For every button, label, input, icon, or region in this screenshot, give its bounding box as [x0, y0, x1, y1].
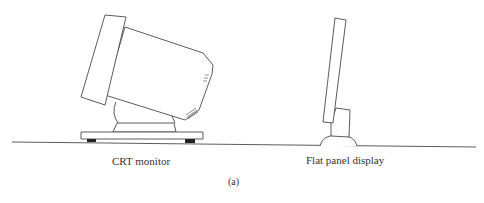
flat-panel-label: Flat panel display	[306, 154, 384, 166]
crt-body	[105, 27, 213, 120]
flat-panel-display	[320, 18, 357, 146]
diagram-canvas	[0, 0, 484, 203]
crt-foot-right	[185, 139, 195, 143]
ground-line	[12, 142, 476, 147]
crt-monitor	[81, 15, 213, 139]
crt-swivel	[114, 102, 118, 123]
crt-foot-left	[87, 139, 96, 142]
crt-pedestal	[113, 123, 176, 132]
flat-panel-screen	[323, 18, 346, 123]
subfigure-label: (a)	[228, 176, 239, 187]
crt-monitor-label: CRT monitor	[112, 155, 170, 167]
crt-base-plate	[81, 132, 203, 139]
